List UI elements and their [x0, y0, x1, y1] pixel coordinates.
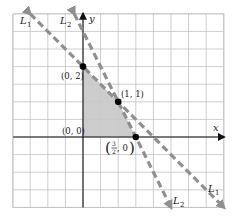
L2-letter: L	[59, 15, 67, 26]
point-label-1-1: (1, 1)	[121, 89, 144, 99]
line-label-L1-top: L 1	[19, 15, 31, 29]
line-label-L2-bottom: L 2	[172, 195, 184, 209]
y-axis-label: y	[88, 13, 95, 24]
open-paren: (	[105, 139, 111, 157]
origin-label: (0, 0)	[62, 126, 85, 136]
fraction-rest: , 0	[117, 143, 128, 153]
L2-letter: L	[172, 195, 180, 206]
x-axis-label: x	[213, 122, 219, 133]
L1-subscript: 1	[215, 189, 219, 197]
L2-subscript: 2	[180, 201, 184, 209]
L1-letter: L	[19, 15, 27, 26]
point-label-0-2: (0, 2)	[61, 71, 84, 81]
line-L1	[30, 14, 224, 208]
fraction-numerator: 3	[112, 140, 116, 147]
L1-letter: L	[207, 183, 215, 194]
vertex-point	[115, 99, 122, 106]
close-paren: )	[129, 139, 135, 157]
vertex-point	[80, 63, 87, 70]
linear-programming-diagram: x y (0, 2) (1, 1) (0, 0) ( 3 2 , 0 ) L 1…	[0, 0, 233, 220]
L2-subscript: 2	[67, 21, 71, 29]
constraint-lines	[30, 14, 224, 208]
fraction-denominator: 2	[112, 148, 116, 155]
L1-subscript: 1	[27, 21, 31, 29]
